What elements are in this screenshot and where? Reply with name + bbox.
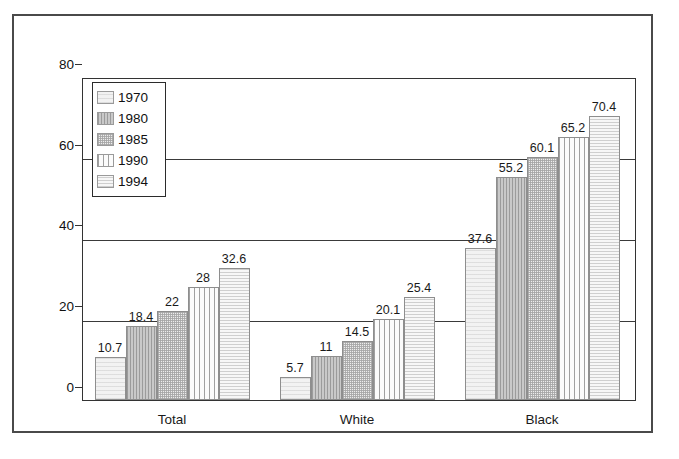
category-label-total: Total <box>158 412 187 427</box>
bar-value-total-1990: 28 <box>196 271 210 285</box>
legend-swatch-1970-icon <box>97 91 114 104</box>
bar-total-1994[interactable] <box>219 268 250 400</box>
bar-value-black-1970: 37.6 <box>468 232 492 246</box>
y-tick-label-0: 0 <box>36 380 74 395</box>
legend-item-1970[interactable]: 1970 <box>97 87 160 108</box>
bar-value-total-1970: 10.7 <box>98 341 122 355</box>
category-label-white: White <box>340 412 375 427</box>
bar-white-1990[interactable] <box>373 319 404 400</box>
y-tick-label-20: 20 <box>36 299 74 314</box>
legend-label-1994: 1994 <box>118 175 148 189</box>
legend-swatch-1994-icon <box>97 175 114 188</box>
bar-total-1980[interactable] <box>126 326 157 400</box>
y-tick-mark-80 <box>75 64 82 65</box>
legend-swatch-1980-icon <box>97 112 114 125</box>
chart-legend: 1970 1980 1985 1990 1994 <box>92 82 166 197</box>
bar-white-1994[interactable] <box>404 297 435 400</box>
bar-value-total-1994: 32.6 <box>222 252 246 266</box>
y-tick-mark-0 <box>75 387 82 388</box>
bar-value-white-1985: 14.5 <box>345 325 369 339</box>
legend-swatch-1990-icon <box>97 154 114 167</box>
legend-label-1980: 1980 <box>118 112 148 126</box>
legend-item-1985[interactable]: 1985 <box>97 129 160 150</box>
bar-value-total-1980: 18.4 <box>129 310 153 324</box>
bar-value-white-1970: 5.7 <box>286 361 303 375</box>
bar-black-1980[interactable] <box>496 177 527 400</box>
bar-value-white-1994: 25.4 <box>407 281 431 295</box>
y-tick-label-40: 40 <box>36 218 74 233</box>
page-border-frame: 80 60 40 20 0 10.7 18.4 22 28 32.6 <box>12 14 653 433</box>
bar-black-1990[interactable] <box>558 137 589 400</box>
bar-black-1970[interactable] <box>465 248 496 400</box>
bar-total-1985[interactable] <box>157 311 188 400</box>
legend-swatch-1985-icon <box>97 133 114 146</box>
bar-value-black-1990: 65.2 <box>561 121 585 135</box>
legend-item-1980[interactable]: 1980 <box>97 108 160 129</box>
bar-value-total-1985: 22 <box>165 295 179 309</box>
y-tick-mark-20 <box>75 306 82 307</box>
bar-value-white-1980: 11 <box>320 340 333 354</box>
y-tick-label-80: 80 <box>36 57 74 72</box>
legend-label-1985: 1985 <box>118 133 148 147</box>
legend-item-1994[interactable]: 1994 <box>97 171 160 192</box>
bar-white-1985[interactable] <box>342 341 373 400</box>
bar-white-1980[interactable] <box>311 356 342 400</box>
legend-label-1990: 1990 <box>118 154 148 168</box>
legend-label-1970: 1970 <box>118 91 148 105</box>
bar-total-1990[interactable] <box>188 287 219 400</box>
bar-black-1985[interactable] <box>527 157 558 400</box>
y-tick-mark-60 <box>75 145 82 146</box>
bar-value-white-1990: 20.1 <box>376 303 400 317</box>
y-tick-label-60: 60 <box>36 138 74 153</box>
bar-value-black-1985: 60.1 <box>530 141 554 155</box>
y-tick-mark-40 <box>75 225 82 226</box>
category-label-black: Black <box>525 412 558 427</box>
bar-white-1970[interactable] <box>280 377 311 400</box>
legend-item-1990[interactable]: 1990 <box>97 150 160 171</box>
bar-value-black-1994: 70.4 <box>592 100 616 114</box>
bar-value-black-1980: 55.2 <box>499 161 523 175</box>
bar-total-1970[interactable] <box>95 357 126 400</box>
bar-black-1994[interactable] <box>589 116 620 400</box>
